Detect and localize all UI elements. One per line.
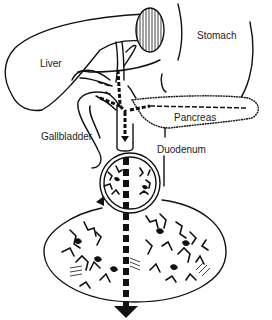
- label-gallbladder: Gallbladder: [41, 131, 92, 142]
- label-pancreas: Pancreas: [174, 112, 216, 123]
- label-duodenum: Duodenum: [157, 144, 206, 155]
- magnified-villi-ellipse: [44, 200, 226, 302]
- common-duct: [117, 106, 133, 151]
- anatomy-diagram: [0, 0, 272, 320]
- bile-ducts: [78, 42, 136, 112]
- label-liver: Liver: [40, 58, 62, 69]
- spleen-hatched: [136, 5, 164, 55]
- label-stomach: Stomach: [197, 30, 236, 41]
